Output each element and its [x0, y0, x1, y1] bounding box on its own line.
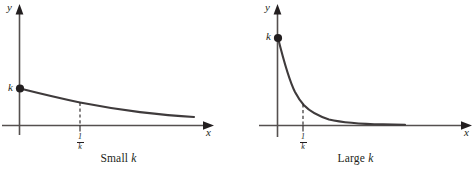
caption-small-k: Small k: [0, 152, 237, 164]
y-intercept-marker-small-k: [16, 84, 24, 92]
x-axis-label-small-k: x: [206, 126, 211, 138]
fraction-denominator: k: [296, 143, 310, 151]
fraction-denominator: k: [73, 143, 87, 151]
y-axis-small-k: [16, 4, 24, 135]
x-tick-label-small-k: 1 k: [73, 133, 87, 151]
panel-large-k: y x k 1 k Large k: [237, 0, 474, 179]
fraction-numerator: 1: [296, 133, 310, 141]
y-intercept-label-large-k: k: [266, 30, 271, 42]
x-axis-large-k: [259, 121, 472, 129]
decay-curve-small-k: [20, 89, 194, 118]
caption-variable: k: [368, 152, 373, 164]
y-intercept-label-small-k: k: [8, 81, 13, 93]
caption-large-k: Large k: [237, 152, 474, 164]
plot-large-k: [237, 0, 475, 152]
y-axis-large-k: [274, 4, 282, 137]
caption-variable: k: [131, 152, 136, 164]
x-tick-label-large-k: 1 k: [296, 133, 310, 151]
caption-text: Large: [338, 152, 369, 164]
x-axis-small-k: [2, 121, 214, 129]
fraction-numerator: 1: [73, 133, 87, 141]
y-axis-label-large-k: y: [265, 1, 270, 13]
panel-small-k: y x k 1 k Small k: [0, 0, 237, 179]
decay-curve-large-k: [278, 38, 405, 125]
caption-text: Small: [100, 152, 131, 164]
y-intercept-marker-large-k: [274, 34, 282, 42]
figure-root: y x k 1 k Small k: [0, 0, 475, 179]
plot-small-k: [0, 0, 237, 152]
x-axis-label-large-k: x: [464, 126, 469, 138]
y-axis-label-small-k: y: [7, 1, 12, 13]
